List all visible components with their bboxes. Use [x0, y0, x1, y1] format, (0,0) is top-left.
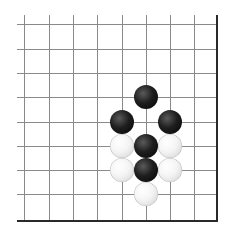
white-stone[interactable] — [110, 158, 134, 182]
black-stone[interactable] — [134, 158, 158, 182]
white-stone[interactable] — [158, 134, 182, 158]
grid-line-horizontal — [17, 194, 216, 195]
grid-line-vertical — [24, 15, 25, 220]
go-board[interactable] — [0, 0, 228, 234]
black-stone[interactable] — [110, 110, 134, 134]
grid-line-horizontal — [17, 97, 216, 98]
white-stone[interactable] — [158, 158, 182, 182]
white-stone[interactable] — [110, 134, 134, 158]
black-stone[interactable] — [134, 85, 158, 109]
board-edge-bottom — [17, 220, 218, 222]
grid-line-vertical — [49, 15, 50, 220]
white-stone[interactable] — [134, 182, 158, 206]
grid-line-horizontal — [17, 49, 216, 50]
board-edge-right — [216, 15, 218, 222]
grid-line-vertical — [73, 15, 74, 220]
grid-line-horizontal — [17, 24, 216, 25]
grid-line-horizontal — [17, 73, 216, 74]
grid-line-vertical — [97, 15, 98, 220]
black-stone[interactable] — [134, 134, 158, 158]
grid-line-vertical — [194, 15, 195, 220]
black-stone[interactable] — [158, 110, 182, 134]
